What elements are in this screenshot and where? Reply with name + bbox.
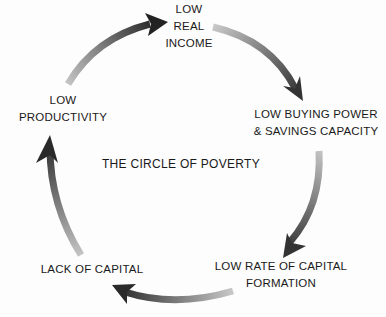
- node-lack-of-capital: LACK OF CAPITAL: [41, 261, 143, 278]
- circle-of-poverty-diagram: LOW REAL INCOME LOW BUYING POWER & SAVIN…: [0, 0, 386, 317]
- node-low-productivity: LOW PRODUCTIVITY: [19, 92, 107, 126]
- diagram-title: THE CIRCLE OF POVERTY: [102, 157, 260, 171]
- node-line: FORMATION: [215, 275, 347, 292]
- node-line: INCOME: [165, 35, 212, 52]
- arrow-productivity-to-income: [68, 13, 168, 84]
- node-low-buying-power: LOW BUYING POWER & SAVINGS CAPACITY: [254, 106, 379, 140]
- node-line: LACK OF CAPITAL: [41, 261, 143, 278]
- arrow-buying-to-formation: [283, 151, 319, 258]
- node-line: LOW RATE OF CAPITAL: [215, 258, 347, 275]
- node-low-rate-capital-formation: LOW RATE OF CAPITAL FORMATION: [215, 258, 347, 292]
- node-low-real-income: LOW REAL INCOME: [165, 1, 212, 52]
- node-line: PRODUCTIVITY: [19, 109, 107, 126]
- arrow-capital-to-productivity: [36, 135, 81, 255]
- node-line: LOW: [19, 92, 107, 109]
- node-line: LOW BUYING POWER: [254, 106, 379, 123]
- node-line: LOW: [165, 1, 212, 18]
- arrow-income-to-buying: [213, 27, 303, 101]
- node-line: REAL: [165, 18, 212, 35]
- node-line: & SAVINGS CAPACITY: [254, 123, 379, 140]
